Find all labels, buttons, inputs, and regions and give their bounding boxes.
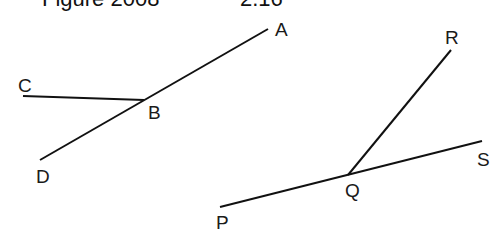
- label-p: P: [216, 213, 229, 232]
- label-a: A: [275, 20, 288, 39]
- label-d: D: [36, 167, 50, 186]
- label-c: C: [18, 76, 32, 95]
- label-s: S: [477, 150, 490, 169]
- label-b: B: [148, 103, 161, 122]
- angle-diagram: [0, 0, 498, 239]
- label-q: Q: [345, 181, 360, 200]
- segment-cb: [23, 96, 144, 100]
- segment-da: [40, 29, 268, 160]
- label-r: R: [445, 28, 459, 47]
- segment-qr: [348, 50, 451, 175]
